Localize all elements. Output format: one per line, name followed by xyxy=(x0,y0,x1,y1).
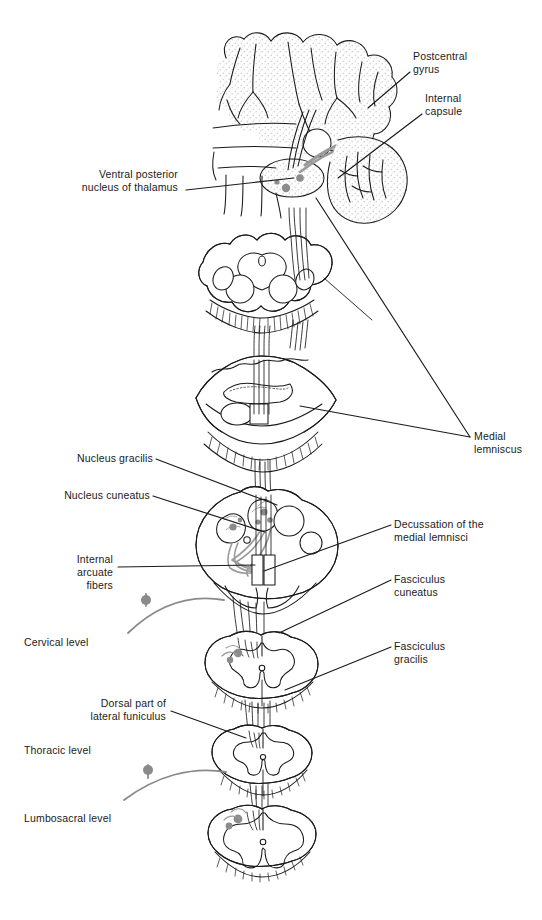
leader-medial-lemniscus-upper xyxy=(316,198,470,437)
label-fasciculus-cuneatus: Fasciculus cuneatus xyxy=(394,573,445,599)
dorsal-root-ganglion-cervical xyxy=(141,595,151,605)
spinal-cord-cervical xyxy=(205,631,318,713)
medial-lemniscus-fibers-midbrain-pons xyxy=(290,320,308,350)
label-thoracic-level: Thoracic level xyxy=(24,744,91,757)
leader-dorsal-part-lateral-funiculus xyxy=(171,711,246,738)
spinal-cord-lumbosacral xyxy=(208,805,316,882)
medial-lemniscus-fibers-pons-midbrain-gap xyxy=(254,326,270,356)
label-dorsal-part-of-lateral-funiculus: Dorsal part of lateral funiculus xyxy=(46,697,166,723)
label-internal-capsule: Internal capsule xyxy=(425,92,462,118)
label-decussation-of-the-medial-lemnisci: Decussation of the medial lemnisci xyxy=(394,518,484,544)
label-ventral-posterior-nucleus-of-thalamus: Ventral posterior nucleus of thalamus xyxy=(18,168,178,194)
label-internal-arcuate-fibers: Internal arcuate fibers xyxy=(43,553,113,592)
leader-nucleus-gracilis xyxy=(156,459,277,505)
label-cervical-level: Cervical level xyxy=(24,636,89,649)
label-nucleus-cuneatus: Nucleus cuneatus xyxy=(25,489,150,502)
temporal-lobe-region xyxy=(327,137,407,224)
midbrain-section xyxy=(199,233,372,333)
label-lumbosacral-level: Lumbosacral level xyxy=(24,812,111,825)
medial-lemniscus-fibers-above-midbrain xyxy=(289,208,306,237)
label-postcentral-gyrus: Postcentral gyrus xyxy=(413,50,467,76)
label-nucleus-gracilis: Nucleus gracilis xyxy=(33,452,153,465)
label-fasciculus-gracilis: Fasciculus gracilis xyxy=(394,640,445,666)
dorsal-root-ganglion-lumbosacral xyxy=(143,765,153,775)
label-medial-lemniscus: Medial lemniscus xyxy=(474,430,522,456)
peripheral-nerve-lumbosacral xyxy=(124,765,226,800)
anatomical-figure: Postcentral gyrus Internal capsule Ventr… xyxy=(0,0,542,920)
pons-section xyxy=(196,356,336,472)
medulla-section xyxy=(196,487,338,614)
leader-medial-lemniscus-lower xyxy=(300,406,470,437)
